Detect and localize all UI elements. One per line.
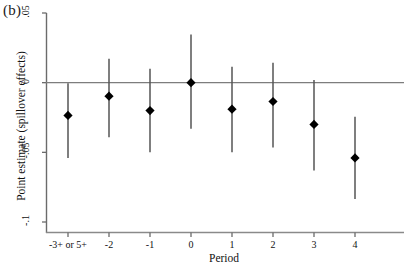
- axis-lines: [46, 13, 404, 233]
- data-point-marker: [145, 106, 154, 115]
- data-point-marker: [268, 97, 277, 106]
- error-bars: [68, 35, 355, 199]
- data-point-marker: [309, 120, 318, 129]
- figure-panel-b: (b) Point estimate (spillover effects) P…: [0, 0, 409, 273]
- x-axis-ticks: [68, 233, 355, 238]
- data-point-marker: [350, 153, 359, 162]
- data-point-marker: [227, 105, 236, 114]
- x-tick-label: -3+ or 5+: [49, 239, 87, 250]
- y-tick-label: -.1: [19, 206, 30, 236]
- y-tick-label: 0: [19, 66, 30, 96]
- x-tick-label: 2: [271, 239, 276, 250]
- x-tick-label: 4: [353, 239, 358, 250]
- data-point-marker: [63, 111, 72, 120]
- data-point-marker: [186, 78, 195, 87]
- x-tick-label: -1: [146, 239, 154, 250]
- x-tick-label: 0: [189, 239, 194, 250]
- x-tick-label: -2: [105, 239, 113, 250]
- data-point-markers: [63, 78, 359, 162]
- x-tick-label: 1: [230, 239, 235, 250]
- y-tick-label: -.05: [19, 136, 30, 166]
- data-point-marker: [104, 92, 113, 101]
- y-tick-label: .05: [19, 0, 30, 27]
- plot-area: [0, 0, 409, 273]
- x-tick-label: 3: [312, 239, 317, 250]
